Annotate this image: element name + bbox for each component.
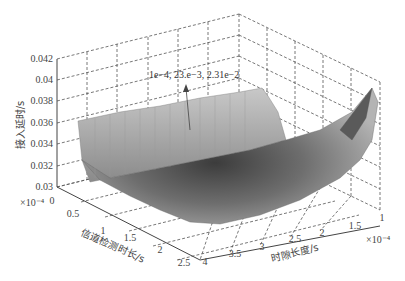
svg-text:2.5: 2.5 bbox=[289, 233, 302, 244]
svg-text:0.034: 0.034 bbox=[31, 138, 54, 149]
z-ticks: 0.03 0.032 0.034 0.036 0.038 0.04 0.042 bbox=[31, 53, 54, 192]
svg-text:2: 2 bbox=[320, 227, 325, 238]
svg-text:0.5: 0.5 bbox=[67, 208, 80, 219]
surface-plot: 1e−4, 23.e−3, 2.31e−2 0.03 0.032 0.034 0… bbox=[0, 0, 405, 281]
svg-text:0.042: 0.042 bbox=[31, 53, 54, 64]
y-axis-label: 时隙长度/s bbox=[270, 241, 320, 264]
x-axis-label: 信道检测时长/s bbox=[79, 226, 147, 265]
svg-text:1: 1 bbox=[380, 212, 385, 223]
datatip-label: 1e−4, 23.e−3, 2.31e−2 bbox=[149, 69, 239, 80]
svg-text:0.038: 0.038 bbox=[31, 95, 54, 106]
svg-text:0.032: 0.032 bbox=[31, 160, 54, 171]
z-axis-label: 接入延时/s bbox=[14, 101, 26, 150]
svg-text:2.5: 2.5 bbox=[178, 257, 191, 268]
svg-text:0: 0 bbox=[50, 195, 55, 206]
y-multiplier: ×10⁻⁴ bbox=[366, 234, 391, 245]
svg-text:4: 4 bbox=[203, 256, 208, 267]
svg-text:2: 2 bbox=[158, 244, 163, 255]
svg-text:1.5: 1.5 bbox=[124, 232, 137, 243]
x-multiplier: ×10⁻⁴ bbox=[20, 197, 45, 208]
svg-text:0.036: 0.036 bbox=[31, 117, 54, 128]
svg-text:3: 3 bbox=[260, 241, 265, 252]
svg-text:0.04: 0.04 bbox=[36, 74, 54, 85]
svg-text:0.03: 0.03 bbox=[36, 181, 54, 192]
svg-text:1.5: 1.5 bbox=[349, 220, 362, 231]
surface bbox=[78, 88, 378, 224]
svg-text:3.5: 3.5 bbox=[229, 248, 242, 259]
